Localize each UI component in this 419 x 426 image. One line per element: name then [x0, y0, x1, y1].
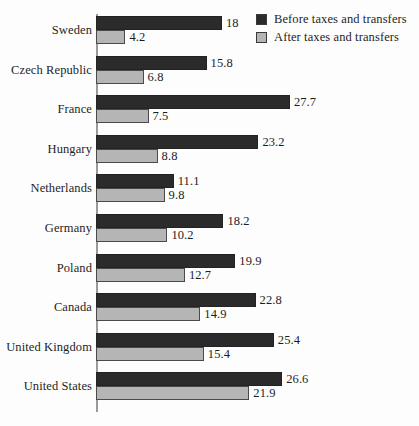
category-label: Sweden [0, 23, 92, 37]
category-label: Poland [0, 261, 92, 275]
bar-value-label: 14.9 [204, 307, 226, 321]
category-label: Czech Republic [0, 63, 92, 77]
bar-value-label: 10.2 [171, 228, 193, 242]
bar-before-taxes [96, 293, 256, 307]
bar-value-label: 7.5 [153, 109, 169, 123]
category-label: Canada [0, 300, 92, 314]
bar-value-label: 22.8 [260, 293, 282, 307]
bar-value-label: 21.9 [253, 386, 275, 400]
category-label: United Kingdom [0, 340, 92, 354]
bar-before-taxes [96, 135, 258, 149]
bar-after-taxes [96, 386, 249, 400]
bar-value-label: 23.2 [262, 135, 284, 149]
bar-after-taxes [96, 307, 200, 321]
bar-value-label: 9.8 [169, 188, 185, 202]
bar-value-label: 6.8 [148, 70, 164, 84]
bar-value-label: 26.6 [286, 372, 308, 386]
bar-before-taxes [96, 333, 274, 347]
bar-value-label: 19.9 [239, 254, 261, 268]
bar-after-taxes [96, 70, 144, 84]
bar-after-taxes [96, 228, 167, 242]
bar-before-taxes [96, 16, 222, 30]
category-label: Germany [0, 221, 92, 235]
bar-value-label: 15.4 [208, 347, 230, 361]
bar-after-taxes [96, 30, 125, 44]
bar-before-taxes [96, 95, 290, 109]
bar-chart: Before taxes and transfers After taxes a… [0, 0, 419, 426]
bar-value-label: 4.2 [129, 30, 145, 44]
bar-value-label: 8.8 [162, 149, 178, 163]
bar-after-taxes [96, 347, 204, 361]
bar-value-label: 18.2 [227, 214, 249, 228]
bar-before-taxes [96, 254, 235, 268]
bar-after-taxes [96, 268, 185, 282]
bar-before-taxes [96, 174, 174, 188]
bar-after-taxes [96, 188, 165, 202]
bar-before-taxes [96, 56, 207, 70]
category-label: Hungary [0, 142, 92, 156]
bar-after-taxes [96, 149, 158, 163]
category-label: France [0, 102, 92, 116]
bar-value-label: 25.4 [278, 333, 300, 347]
bar-value-label: 12.7 [189, 268, 211, 282]
bar-value-label: 15.8 [211, 56, 233, 70]
bar-after-taxes [96, 109, 149, 123]
bar-before-taxes [96, 214, 223, 228]
bar-value-label: 18 [226, 16, 239, 30]
plot-area: Sweden184.2Czech Republic15.86.8France27… [0, 0, 419, 426]
category-label: Netherlands [0, 181, 92, 195]
bar-value-label: 27.7 [294, 95, 316, 109]
bar-value-label: 11.1 [178, 174, 200, 188]
category-label: United States [0, 379, 92, 393]
bar-before-taxes [96, 372, 282, 386]
